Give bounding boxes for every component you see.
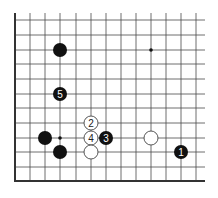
go-board-diagram: 52431	[0, 0, 218, 198]
white-stone-move-4: 4	[84, 131, 98, 145]
black-stone-move-5: 5	[53, 87, 67, 101]
move-number-label: 5	[57, 89, 63, 100]
move-number-label: 2	[88, 118, 94, 129]
black-stone-move-3: 3	[99, 131, 113, 145]
go-board: 52431	[0, 0, 218, 198]
black-stone-icon	[38, 131, 52, 145]
black-stone	[53, 145, 67, 159]
black-stone	[38, 131, 52, 145]
star-point	[58, 136, 62, 140]
black-stone-icon	[53, 43, 67, 57]
black-stone-move-1: 1	[174, 145, 188, 159]
move-number-label: 3	[103, 133, 109, 144]
move-number-label: 4	[88, 133, 94, 144]
white-stone	[84, 145, 98, 159]
white-stone-move-2: 2	[84, 116, 98, 130]
white-stone-icon	[84, 145, 98, 159]
move-number-label: 1	[178, 147, 184, 158]
black-stone	[53, 43, 67, 57]
white-stone-icon	[144, 131, 158, 145]
black-stone-icon	[53, 145, 67, 159]
stones: 52431	[38, 43, 188, 159]
star-point	[149, 48, 153, 52]
white-stone	[144, 131, 158, 145]
